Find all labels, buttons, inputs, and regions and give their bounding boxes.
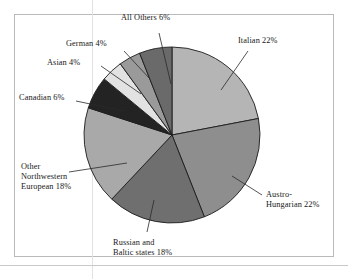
- slice-label-canadian: Canadian 6%: [19, 93, 65, 103]
- pie-chart-figure: Italian 22% Austro- Hungarian 22% Russia…: [0, 0, 348, 279]
- slice-label-other-northwestern-line2: Northwestern: [21, 172, 67, 182]
- slice-label-other-northwestern-line1: Other: [21, 162, 40, 172]
- slice-label-other-northwestern-line3: European 18%: [21, 182, 71, 192]
- slice-label-austro-hungarian-line2: Hungarian 22%: [266, 200, 320, 210]
- slice-label-asian: Asian 4%: [47, 58, 80, 68]
- pie-slices-group: [84, 47, 260, 223]
- slice-label-german: German 4%: [66, 39, 107, 49]
- slice-label-austro-hungarian-line1: Austro-: [266, 190, 292, 200]
- pie-chart-canvas: [0, 0, 348, 279]
- slice-label-russian-baltic-line1: Russian and: [113, 238, 154, 248]
- slice-label-russian-baltic-line2: Baltic states 18%: [113, 248, 172, 258]
- slice-label-italian: Italian 22%: [238, 36, 278, 46]
- slice-label-all-others: All Others 6%: [121, 13, 170, 23]
